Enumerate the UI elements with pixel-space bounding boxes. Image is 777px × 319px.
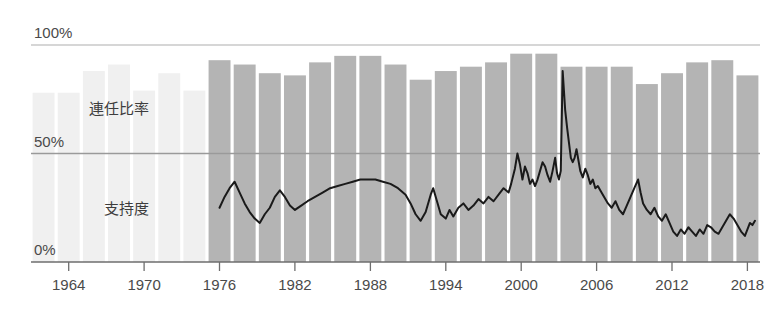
x-axis-tick-label: 1988	[354, 276, 387, 293]
series-annotation: 連任比率	[89, 100, 149, 118]
reelection-bar	[586, 67, 608, 262]
reelection-bar	[661, 73, 683, 262]
reelection-bar	[334, 56, 356, 262]
reelection-bar	[485, 62, 507, 262]
bar-layer	[33, 54, 759, 262]
y-axis-tick-label: 50%	[34, 133, 64, 150]
reelection-bar	[183, 91, 205, 262]
reelection-bar	[535, 54, 557, 262]
reelection-bar	[284, 75, 306, 262]
reelection-bar	[209, 60, 231, 262]
reelection-bar	[460, 67, 482, 262]
reelection-bar	[234, 65, 256, 262]
x-axis-tick-label: 2006	[580, 276, 613, 293]
x-axis-tick-label: 1970	[127, 276, 160, 293]
chart-canvas: 0%50%100% 196419701976198219881994200020…	[0, 0, 777, 319]
reelection-bar	[108, 65, 130, 262]
x-axis-tick-label: 2012	[655, 276, 688, 293]
x-axis-tick-label: 1964	[52, 276, 85, 293]
x-axis-tick-label: 2018	[731, 276, 764, 293]
reelection-bar	[736, 75, 758, 262]
reelection-bar	[259, 73, 281, 262]
y-axis-tick-label: 100%	[34, 24, 72, 41]
reelection-bar	[158, 73, 180, 262]
y-axis-tick-label: 0%	[34, 241, 56, 258]
x-axis-tick-label: 1976	[203, 276, 236, 293]
x-axis-tick-label: 1994	[429, 276, 462, 293]
x-axis-tick-label: 1982	[278, 276, 311, 293]
reelection-bar	[510, 54, 532, 262]
reelection-bar	[611, 67, 633, 262]
reelection-bar	[359, 56, 381, 262]
reelection-bar	[410, 80, 432, 262]
reelection-bar	[636, 84, 658, 262]
x-axis-tick-label: 2000	[505, 276, 538, 293]
reelection-bar	[33, 93, 55, 262]
series-annotation: 支持度	[104, 200, 149, 218]
reelection-bar	[435, 71, 457, 262]
x-axis-tick-labels: 1964197019761982198819942000200620122018	[52, 276, 764, 293]
axis-layer	[31, 262, 760, 271]
reelection-bar	[385, 65, 407, 262]
reelection-bar	[58, 93, 80, 262]
support-and-reelection-chart: 0%50%100% 196419701976198219881994200020…	[0, 0, 777, 319]
reelection-bar	[309, 62, 331, 262]
